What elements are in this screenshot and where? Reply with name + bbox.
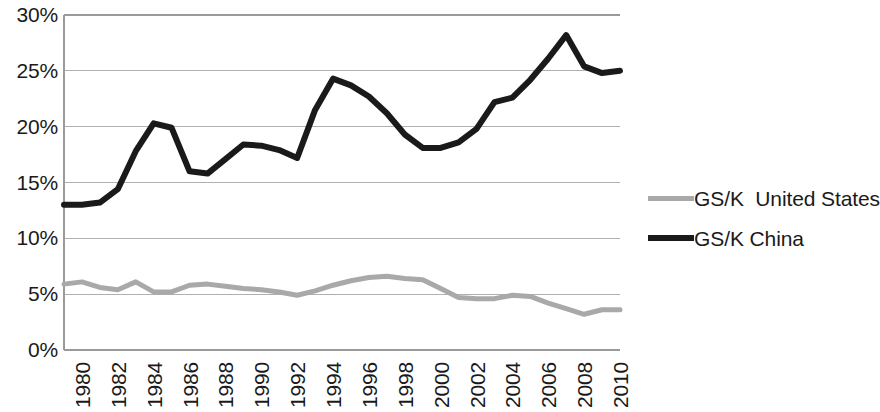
x-tick-label: 1994 <box>323 362 344 408</box>
x-tick-label: 2010 <box>610 362 631 408</box>
x-tick-label: 1998 <box>395 362 416 408</box>
legend-item[interactable]: GS/K China <box>648 218 877 258</box>
x-tick-label: 1992 <box>287 362 308 408</box>
x-tick-label: 2004 <box>502 362 523 408</box>
x-tick-label: 2008 <box>574 362 595 408</box>
legend-swatch-icon <box>648 235 694 241</box>
legend-swatch-icon <box>648 196 694 201</box>
x-tick-label: 2006 <box>538 362 559 408</box>
legend-label: GS/K China <box>694 228 804 249</box>
x-tick-label: 1996 <box>359 362 380 408</box>
x-tick-label: 1982 <box>108 362 129 408</box>
chart-legend: GS/K United StatesGS/K China <box>648 178 877 258</box>
x-tick-label: 2002 <box>467 362 488 408</box>
x-tick-label: 2000 <box>431 362 452 408</box>
x-tick-label: 1984 <box>144 362 165 408</box>
legend-item[interactable]: GS/K United States <box>648 178 877 218</box>
x-tick-label: 1986 <box>180 362 201 408</box>
x-tick-label: 1990 <box>251 362 272 408</box>
x-tick-label: 1988 <box>215 362 236 408</box>
x-tick-label: 1980 <box>72 362 93 408</box>
legend-label: GS/K United States <box>694 188 880 209</box>
